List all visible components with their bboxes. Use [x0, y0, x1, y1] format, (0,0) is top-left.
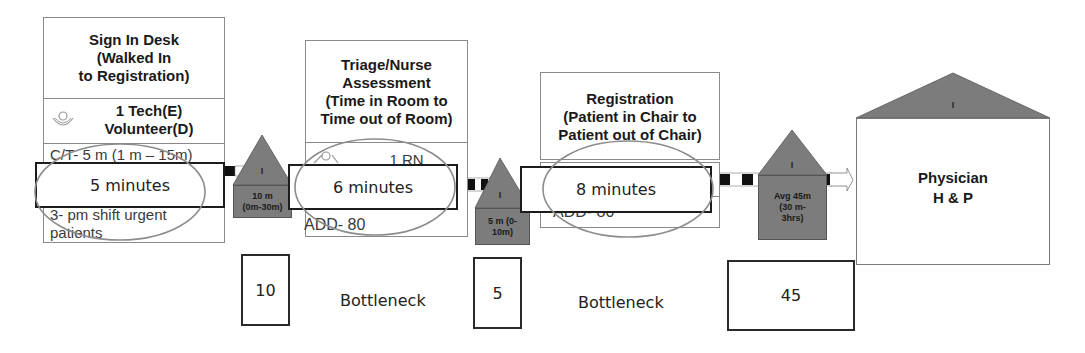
title-line: Assessment	[342, 74, 430, 92]
staff-line: Volunteer(D)	[74, 120, 224, 138]
title-line: Patient out of Chair)	[558, 126, 701, 144]
inventory-wait-2: 5 m (0- 10m)	[475, 208, 530, 245]
staff-section: 1 Tech(E) Volunteer(D)	[44, 98, 224, 144]
bottleneck-label-1: Bottleneck	[340, 291, 426, 310]
wait-value-box-1: 10	[241, 254, 290, 326]
inventory-label: I	[494, 190, 506, 200]
title-line: Physician	[918, 168, 988, 188]
operator-icon	[51, 110, 75, 130]
wait-line: (0m-30m)	[242, 202, 282, 213]
wait-line: 5 m (0-	[488, 216, 517, 227]
data-line: 3- pm shift urgent	[50, 206, 224, 224]
inventory-wait-1: 10 m (0m-30m)	[233, 185, 292, 218]
process-box-physician: Physician H & P	[856, 118, 1050, 265]
staff-line: 1 Tech(E)	[74, 102, 224, 120]
inventory-wait-3: Avg 45m (30 m- 3hrs)	[758, 175, 827, 240]
wait-line: 3hrs)	[781, 213, 803, 224]
title-line: (Time in Room to	[325, 92, 447, 110]
process-title: Sign In Desk (Walked In to Registration)	[44, 18, 224, 99]
bottleneck-label-2: Bottleneck	[578, 293, 664, 312]
title-line: Time out of Room)	[320, 110, 452, 128]
process-title: Triage/Nurse Assessment (Time in Room to…	[306, 41, 467, 143]
wait-line: Avg 45m	[774, 191, 811, 202]
wait-line: 10 m	[252, 191, 273, 202]
process-box-registration: Registration (Patient in Chair to Patien…	[540, 72, 720, 160]
cycle-time-highlight-3: 8 minutes	[520, 166, 712, 213]
cycle-time-highlight-1: 5 minutes	[35, 162, 225, 208]
title-line: H & P	[918, 188, 988, 208]
wait-line: 10m)	[492, 227, 513, 238]
data-line: ADD- 80	[304, 216, 467, 234]
title-line: (Patient in Chair to	[563, 108, 696, 126]
physician-label: Physician H & P	[918, 168, 988, 208]
process-box-sign-in-desk: Sign In Desk (Walked In to Registration)…	[43, 17, 225, 243]
wait-value-box-2: 5	[473, 257, 522, 329]
process-title: Registration (Patient in Chair to Patien…	[541, 73, 719, 161]
title-line: (Walked In	[97, 49, 171, 67]
title-line: to Registration)	[79, 67, 190, 85]
inventory-triangle-1	[233, 135, 292, 185]
physician-roof-label: I	[947, 100, 959, 110]
title-line: Triage/Nurse	[341, 56, 432, 74]
title-line: Registration	[586, 90, 674, 108]
physician-roof	[856, 73, 1050, 118]
wait-line: (30 m-	[779, 202, 806, 213]
cycle-time-highlight-2: 6 minutes	[288, 164, 458, 210]
title-line: Sign In Desk	[89, 31, 179, 49]
data-line: patients	[50, 224, 224, 242]
wait-value-box-3: 45	[727, 260, 855, 331]
inventory-label: I	[786, 160, 798, 170]
inventory-label: I	[256, 166, 268, 176]
